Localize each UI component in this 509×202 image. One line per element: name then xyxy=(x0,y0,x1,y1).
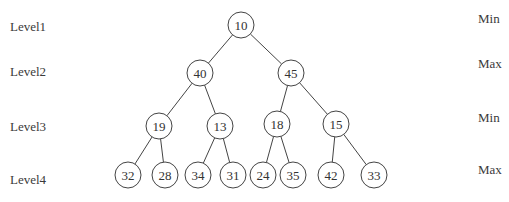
heap-node: 15 xyxy=(323,111,349,137)
node-value: 31 xyxy=(227,168,240,183)
tree-edge xyxy=(280,86,287,112)
tree-edge xyxy=(281,136,289,162)
node-value: 34 xyxy=(192,168,206,183)
tree-edge xyxy=(203,138,214,163)
level-kind-1: Min xyxy=(478,11,500,27)
heap-node: 45 xyxy=(278,60,304,86)
heap-node: 32 xyxy=(115,162,141,188)
tree-edge xyxy=(223,139,229,163)
node-value: 10 xyxy=(235,18,248,33)
heap-node: 13 xyxy=(207,113,233,139)
heap-node: 10 xyxy=(228,12,254,38)
tree-edge xyxy=(161,139,164,162)
node-value: 45 xyxy=(285,66,298,81)
node-value: 35 xyxy=(287,168,300,183)
heap-node: 35 xyxy=(280,162,306,188)
tree-canvas: 104045191318153228343124354233 xyxy=(0,0,509,202)
heap-node: 31 xyxy=(220,162,246,188)
node-value: 18 xyxy=(271,117,284,132)
tree-edge xyxy=(332,137,334,162)
tree-edge xyxy=(167,83,192,115)
level-label-1: Level1 xyxy=(10,19,46,35)
node-value: 32 xyxy=(122,168,135,183)
node-value: 42 xyxy=(325,168,338,183)
heap-node: 33 xyxy=(361,162,387,188)
level-kind-4: Max xyxy=(478,162,502,178)
tree-edge xyxy=(208,35,232,63)
tree-edge xyxy=(205,85,216,114)
level-label-2: Level2 xyxy=(10,64,46,80)
heap-node: 24 xyxy=(250,162,276,188)
node-value: 40 xyxy=(194,66,207,81)
heap-node: 34 xyxy=(185,162,211,188)
heap-node: 42 xyxy=(318,162,344,188)
tree-edge xyxy=(344,134,366,164)
tree-edge xyxy=(266,137,273,163)
tree-edge xyxy=(135,137,152,164)
heap-node: 40 xyxy=(187,60,213,86)
heap-node: 19 xyxy=(146,113,172,139)
level-kind-2: Max xyxy=(478,56,502,72)
level-label-3: Level3 xyxy=(10,119,46,135)
level-label-4: Level4 xyxy=(10,172,46,188)
node-value: 33 xyxy=(368,168,381,183)
heap-node: 18 xyxy=(264,111,290,137)
tree-edge xyxy=(300,83,328,115)
node-value: 24 xyxy=(257,168,271,183)
min-max-heap-diagram: 104045191318153228343124354233 Level1 Le… xyxy=(0,0,509,202)
node-value: 15 xyxy=(330,117,343,132)
level-kind-3: Min xyxy=(478,110,500,126)
heap-node: 28 xyxy=(152,162,178,188)
node-value: 19 xyxy=(153,119,166,134)
node-value: 13 xyxy=(214,119,227,134)
tree-edge xyxy=(250,34,281,64)
node-value: 28 xyxy=(159,168,172,183)
